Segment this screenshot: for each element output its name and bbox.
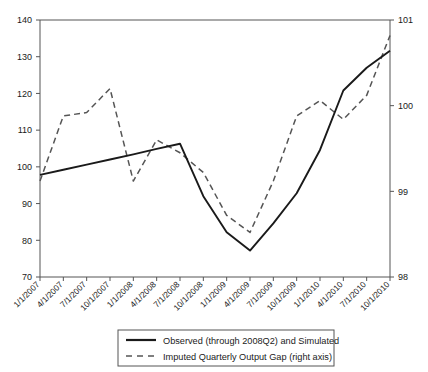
left-tick-label-110: 110 xyxy=(18,125,32,135)
right-tick-label-98: 98 xyxy=(398,272,408,282)
left-tick-label-120: 120 xyxy=(17,89,32,99)
right-tick-label-100: 100 xyxy=(398,101,413,111)
chart-svg: 708090100110120130140 9899100101 1/1/200… xyxy=(0,0,428,372)
chart-legend: Observed (through 2008Q2) and Simulated … xyxy=(118,330,339,366)
left-tick-label-130: 130 xyxy=(17,52,32,62)
left-tick-label-90: 90 xyxy=(22,199,32,209)
chart-figure: 708090100110120130140 9899100101 1/1/200… xyxy=(0,0,428,372)
chart-background xyxy=(0,0,428,372)
left-tick-label-80: 80 xyxy=(22,236,32,246)
left-tick-label-140: 140 xyxy=(17,15,32,25)
legend-label-gap: Imputed Quarterly Output Gap (right axis… xyxy=(163,352,332,362)
right-tick-label-99: 99 xyxy=(398,187,408,197)
left-tick-label-70: 70 xyxy=(22,272,32,282)
right-tick-label-101: 101 xyxy=(398,15,413,25)
legend-label-observed: Observed (through 2008Q2) and Simulated xyxy=(163,336,339,346)
left-tick-label-100: 100 xyxy=(17,162,32,172)
